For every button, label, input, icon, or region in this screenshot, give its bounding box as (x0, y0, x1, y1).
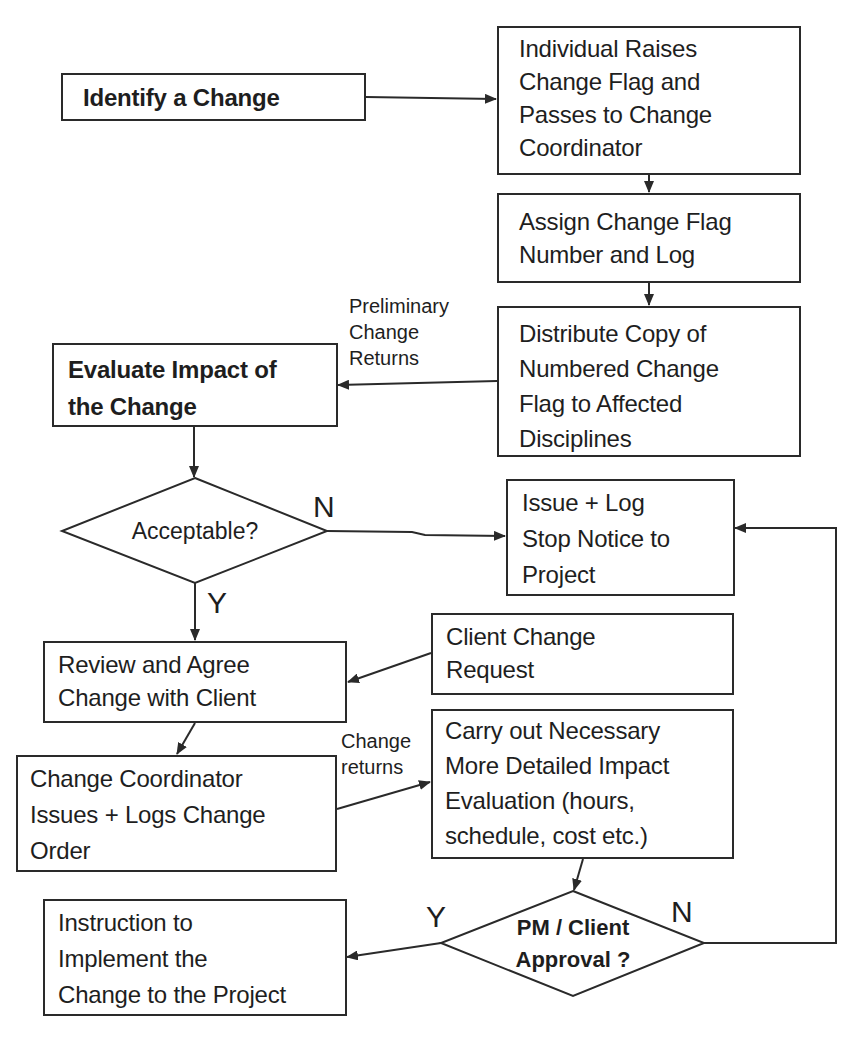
node-text: Project (522, 557, 733, 593)
node-text: schedule, cost etc.) (445, 818, 732, 853)
node-text: Change Coordinator (30, 761, 335, 797)
edge-label-change-returns: Change returns (341, 728, 411, 780)
node-assign-flag-number: Assign Change Flag Number and Log (497, 193, 801, 283)
node-text: the Change (68, 388, 336, 425)
node-text: Review and Agree (58, 648, 345, 681)
node-identify-a-change: Identify a Change (61, 73, 366, 121)
node-implement-change: Instruction to Implement the Change to t… (43, 899, 347, 1016)
approval-decision-text: PM / Client Approval ? (473, 912, 673, 976)
acceptable-decision-text: Acceptable? (95, 515, 295, 547)
node-text: Acceptable? (132, 518, 259, 544)
node-text: Evaluate Impact of (68, 351, 336, 388)
node-change-order: Change Coordinator Issues + Logs Change … (16, 755, 337, 872)
node-text: Stop Notice to (522, 521, 733, 557)
edge-eval-to-approval (574, 859, 583, 890)
node-stop-notice: Issue + Log Stop Notice to Project (506, 479, 735, 596)
node-text: Numbered Change (519, 351, 799, 386)
node-text: Change to the Project (58, 977, 345, 1013)
node-text: Evaluation (hours, (445, 783, 732, 818)
edge-order-to-eval (337, 782, 430, 809)
node-text: Change with Client (58, 681, 345, 714)
node-text: Issues + Logs Change (30, 797, 335, 833)
node-text: More Detailed Impact (445, 748, 732, 783)
edge-identify-to-raise (366, 97, 496, 99)
node-text: Coordinator (519, 131, 799, 164)
node-evaluate-impact: Evaluate Impact of the Change (52, 343, 338, 427)
node-text: Carry out Necessary (445, 713, 732, 748)
node-text: Number and Log (519, 238, 799, 271)
node-client-change-request: Client Change Request (431, 613, 734, 695)
approval-no-label: N (671, 897, 693, 927)
node-text: Request (446, 653, 732, 686)
node-text: Issue + Log (522, 485, 733, 521)
acceptable-no-label: N (313, 492, 335, 522)
node-text: Passes to Change (519, 98, 799, 131)
node-detailed-evaluation: Carry out Necessary More Detailed Impact… (431, 709, 734, 859)
node-text: Implement the (58, 941, 345, 977)
node-text: Order (30, 833, 335, 869)
edge-label-text: returns (341, 754, 411, 780)
edge-label-text: Change (341, 728, 411, 754)
node-text: Approval ? (473, 944, 673, 976)
node-text: PM / Client (473, 912, 673, 944)
node-distribute-copy: Distribute Copy of Numbered Change Flag … (497, 306, 801, 457)
node-text: Identify a Change (83, 81, 364, 114)
node-text: Change Flag and (519, 65, 799, 98)
node-text: Flag to Affected (519, 386, 799, 421)
node-review-agree: Review and Agree Change with Client (43, 641, 347, 723)
edge-label-preliminary: Preliminary Change Returns (349, 293, 449, 371)
node-text: Assign Change Flag (519, 205, 799, 238)
edge-acceptable-no (327, 531, 505, 536)
node-text: Client Change (446, 620, 732, 653)
edge-review-to-order (177, 723, 195, 754)
edge-approval-yes (347, 943, 441, 957)
node-text: Individual Raises (519, 32, 799, 65)
node-text: Distribute Copy of (519, 316, 799, 351)
edge-label-text: Returns (349, 345, 449, 371)
edge-client-to-review (348, 653, 431, 682)
edge-label-text: Change (349, 319, 449, 345)
edge-label-text: Preliminary (349, 293, 449, 319)
acceptable-yes-label: Y (207, 588, 227, 618)
node-raise-change-flag: Individual Raises Change Flag and Passes… (497, 26, 801, 175)
node-text: Disciplines (519, 421, 799, 456)
approval-yes-label: Y (426, 902, 446, 932)
edge-distribute-to-evaluate (338, 381, 497, 385)
node-text: Instruction to (58, 905, 345, 941)
